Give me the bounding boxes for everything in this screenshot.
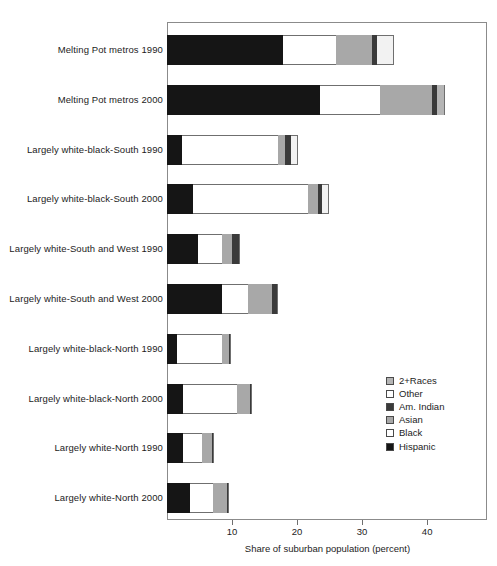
- legend-label: Am. Indian: [399, 402, 444, 412]
- bar-segment-races2: [437, 85, 445, 115]
- legend-item: Black: [386, 427, 482, 440]
- legend-swatch-races2: [386, 377, 394, 385]
- category-label: Largely white-black-North 1990: [0, 343, 163, 354]
- bar-segment-black: [198, 234, 222, 264]
- bar-row: [167, 483, 229, 513]
- category-label: Largely white-black-South 1990: [0, 144, 163, 155]
- bar-segment-hispanic: [167, 334, 177, 364]
- bar-segment-hispanic: [167, 35, 283, 65]
- legend-item: Asian: [386, 414, 482, 427]
- bar-segment-black: [183, 433, 202, 463]
- bar-segment-hispanic: [167, 234, 198, 264]
- x-tick: [232, 520, 233, 525]
- category-axis-labels: Melting Pot metros 1990Melting Pot metro…: [0, 22, 163, 520]
- x-tick: [297, 520, 298, 525]
- category-label: Largely white-South and West 2000: [0, 293, 163, 304]
- x-tick: [362, 520, 363, 525]
- legend-item: 2+Races: [386, 374, 482, 387]
- x-axis-title: Share of suburban population (percent): [167, 543, 488, 554]
- legend-swatch-amindian: [386, 403, 394, 411]
- legend-swatch-asian: [386, 416, 394, 424]
- bar-segment-asian: [222, 234, 232, 264]
- bar-segment-amindian: [232, 234, 240, 264]
- bar-segment-races2: [328, 184, 329, 214]
- bar-segment-asian: [308, 184, 318, 214]
- legend-swatch-black: [386, 429, 394, 437]
- legend-label: 2+Races: [399, 376, 437, 386]
- legend-label: Black: [399, 428, 422, 438]
- bar-segment-hispanic: [167, 184, 193, 214]
- x-tick-label: 10: [227, 526, 238, 537]
- bar-segment-other: [377, 35, 394, 65]
- bar-segment-asian: [248, 284, 272, 314]
- bar-segment-black: [193, 184, 308, 214]
- bar-segment-black: [177, 334, 222, 364]
- bar-segment-asian: [278, 135, 285, 165]
- x-tick-label: 20: [292, 526, 303, 537]
- category-label: Melting Pot metros 1990: [0, 44, 163, 55]
- category-label: Largely white-South and West 1990: [0, 243, 163, 254]
- bar-segment-hispanic: [167, 483, 190, 513]
- bar-segment-black: [320, 85, 380, 115]
- bar-segment-black: [182, 135, 278, 165]
- legend-item: Am. Indian: [386, 400, 482, 413]
- bar-segment-hispanic: [167, 85, 320, 115]
- stacked-bar-chart: Melting Pot metros 1990Melting Pot metro…: [0, 0, 497, 566]
- bar-row: [167, 135, 298, 165]
- bar-segment-hispanic: [167, 433, 183, 463]
- bar-row: [167, 35, 394, 65]
- bar-segment-black: [222, 284, 248, 314]
- category-label: Largely white-black-South 2000: [0, 193, 163, 204]
- bar-segment-hispanic: [167, 384, 183, 414]
- bar-row: [167, 85, 445, 115]
- x-tick: [427, 520, 428, 525]
- bar-segment-amindian: [272, 284, 278, 314]
- bar-segment-asian: [222, 334, 230, 364]
- x-tick-label: 30: [357, 526, 368, 537]
- bar-row: [167, 433, 214, 463]
- legend-swatch-other: [386, 390, 394, 398]
- bar-segment-hispanic: [167, 284, 222, 314]
- legend-swatch-hispanic: [386, 443, 394, 451]
- bar-segment-black: [283, 35, 336, 65]
- bar-segment-amindian: [229, 334, 231, 364]
- legend-label: Hispanic: [399, 442, 435, 452]
- category-label: Largely white-black-North 2000: [0, 393, 163, 404]
- legend-item: Hispanic: [386, 440, 482, 453]
- bar-segment-amindian: [227, 483, 229, 513]
- bar-row: [167, 284, 278, 314]
- legend-label: Other: [399, 389, 423, 399]
- bar-segment-asian: [202, 433, 212, 463]
- bar-segment-asian: [336, 35, 372, 65]
- bar-segment-hispanic: [167, 135, 182, 165]
- chart-legend: 2+RacesOtherAm. IndianAsianBlackHispanic: [386, 374, 482, 453]
- bar-segment-amindian: [212, 433, 214, 463]
- bar-segment-asian: [380, 85, 432, 115]
- x-tick-label: 40: [422, 526, 433, 537]
- bar-row: [167, 234, 240, 264]
- bar-segment-asian: [237, 384, 250, 414]
- bar-segment-black: [183, 384, 237, 414]
- bar-row: [167, 384, 252, 414]
- legend-item: Other: [386, 387, 482, 400]
- category-label: Largely white-North 1990: [0, 442, 163, 453]
- bar-row: [167, 334, 231, 364]
- bar-segment-other: [291, 135, 299, 165]
- category-label: Largely white-North 2000: [0, 492, 163, 503]
- bar-segment-asian: [213, 483, 227, 513]
- legend-label: Asian: [399, 415, 423, 425]
- category-label: Melting Pot metros 2000: [0, 94, 163, 105]
- bar-segment-amindian: [250, 384, 252, 414]
- bar-segment-black: [190, 483, 213, 513]
- bar-row: [167, 184, 329, 214]
